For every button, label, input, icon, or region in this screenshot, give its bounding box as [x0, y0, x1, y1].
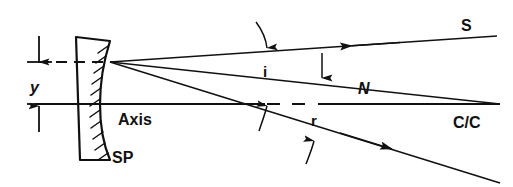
- optics-diagram-figure: y Axis SP i N r S C/C: [0, 0, 513, 187]
- reflected-ray-arrow: [340, 133, 392, 149]
- mirror-outline: [76, 37, 110, 160]
- angle-i-leader: [256, 22, 267, 48]
- diagram-canvas: [0, 0, 513, 187]
- angle-r-leader-lower: [306, 141, 314, 164]
- normal-line-segment: [110, 62, 500, 104]
- label-mirror-sp: SP: [112, 150, 133, 166]
- label-source-ray: S: [461, 18, 472, 34]
- label-center-of-curvature: C/C: [453, 115, 481, 131]
- label-object-height: y: [30, 80, 39, 96]
- label-angle-of-reflection: r: [311, 113, 317, 128]
- label-normal: N: [358, 81, 370, 97]
- angle-of-reflection-marker: [259, 106, 314, 164]
- incident-ray-arrow: [352, 43, 400, 46]
- reflected-ray-line: [110, 62, 500, 183]
- incident-ray-line: [110, 36, 497, 62]
- spherical-mirror: [76, 37, 110, 160]
- incident-ray: [110, 36, 497, 62]
- label-axis: Axis: [118, 112, 152, 128]
- reflected-ray: [110, 62, 500, 183]
- angle-of-incidence-marker: [256, 22, 267, 48]
- label-angle-of-incidence: i: [263, 64, 267, 79]
- normal-line: [110, 62, 500, 104]
